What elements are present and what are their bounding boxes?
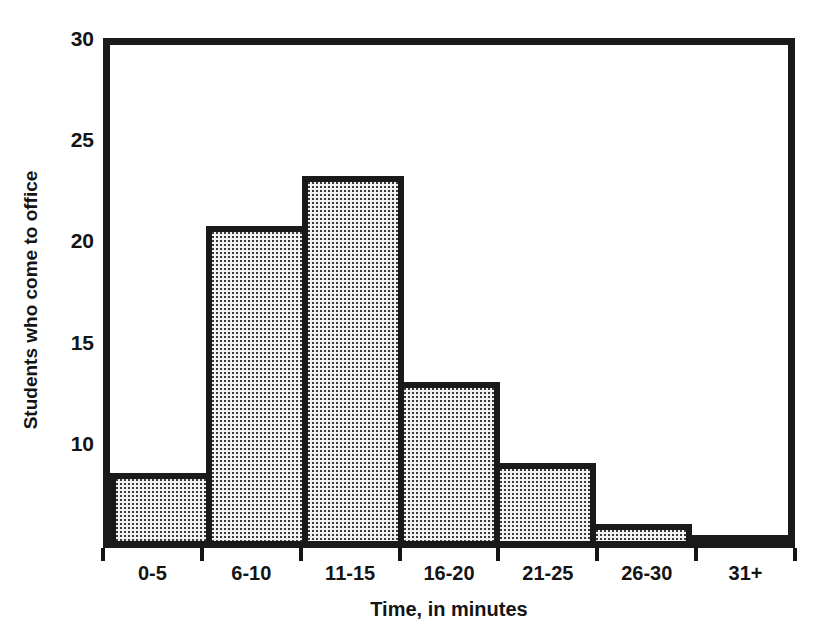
- bar-16-20: [398, 382, 500, 541]
- x-tick-label: 26-30: [597, 556, 696, 590]
- bar-21-25: [494, 463, 596, 541]
- x-tick-label: 11-15: [301, 556, 400, 590]
- y-tick-label: 25: [48, 129, 94, 150]
- x-axis-title: Time, in minutes: [103, 598, 795, 621]
- bar-26-30: [590, 524, 692, 541]
- x-tick-label: 6-10: [202, 556, 301, 590]
- bar-31-: [686, 535, 788, 541]
- y-tick-label: 20: [48, 230, 94, 251]
- y-axis-ticks: 3025201510: [42, 0, 94, 643]
- x-axis-tick-labels: 0-56-1011-1516-2021-2526-3031+: [103, 556, 795, 590]
- y-tick-label: 15: [48, 331, 94, 352]
- x-tick-label: 31+: [696, 556, 795, 590]
- y-tick-label: 30: [48, 28, 94, 49]
- bar-series: [110, 45, 788, 541]
- bar-6-10: [206, 226, 308, 541]
- histogram-figure: Students who come to office 3025201510 0…: [0, 0, 827, 643]
- plot-area: [103, 38, 795, 548]
- bar-11-15: [302, 176, 404, 541]
- x-tick-label: 21-25: [498, 556, 597, 590]
- x-tick-label: 0-5: [103, 556, 202, 590]
- bar-0-5: [110, 473, 212, 541]
- x-tick-label: 16-20: [400, 556, 499, 590]
- y-tick-label: 10: [48, 432, 94, 453]
